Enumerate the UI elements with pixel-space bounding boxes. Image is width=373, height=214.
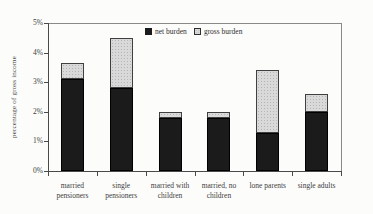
x-tick: [195, 172, 196, 176]
y-tick-label: 1%: [17, 136, 43, 146]
plot-top-border: [48, 23, 342, 24]
y-tick: [44, 23, 48, 24]
plot-right-border: [341, 23, 342, 172]
bar-net-single-pensioners: [110, 88, 133, 171]
x-category-label-lone-parents: lone parents: [243, 181, 292, 191]
x-category-label-single-pensioners: single pensioners: [97, 181, 146, 200]
y-tick-label: 5%: [17, 18, 43, 28]
y-tick-label: 4%: [17, 48, 43, 58]
y-tick: [44, 141, 48, 142]
bar-gross-married-pensioners: [61, 63, 84, 79]
x-category-label-married-with-children: married with children: [146, 181, 195, 200]
y-tick: [44, 112, 48, 113]
legend-label: net burden: [155, 27, 187, 36]
x-tick: [243, 172, 244, 176]
bar-net-married-no-children: [207, 118, 230, 171]
legend-item-net-burden: net burden: [145, 27, 187, 36]
x-tick: [341, 172, 342, 176]
y-tick: [44, 82, 48, 83]
bar-net-married-pensioners: [61, 79, 84, 171]
bar-net-married-with-children: [159, 118, 182, 171]
bar-net-single-adults: [305, 112, 328, 171]
bar-net-lone-parents: [256, 133, 279, 171]
chart-figure: percentage of gross income net burdengro…: [0, 0, 373, 214]
y-tick-label: 2%: [17, 107, 43, 117]
x-category-label-married-no-children: married, no children: [195, 181, 244, 200]
y-tick: [44, 53, 48, 54]
y-axis: [48, 23, 49, 171]
bar-gross-single-pensioners: [110, 38, 133, 88]
legend-label: gross burden: [204, 27, 243, 36]
x-category-label-married-pensioners: married pensioners: [48, 181, 97, 200]
bar-gross-lone-parents: [256, 70, 279, 132]
y-tick-label: 3%: [17, 77, 43, 87]
legend: net burdengross burden: [145, 27, 242, 36]
legend-item-gross-burden: gross burden: [194, 27, 243, 36]
bar-gross-single-adults: [305, 94, 328, 112]
y-tick-label: 0%: [17, 166, 43, 176]
gross-burden-swatch-icon: [194, 28, 201, 35]
y-axis-title: percentage of gross income: [10, 22, 20, 172]
x-tick: [292, 172, 293, 176]
x-tick: [48, 172, 49, 176]
net-burden-swatch-icon: [145, 28, 152, 35]
x-tick: [97, 172, 98, 176]
x-tick: [146, 172, 147, 176]
x-category-label-single-adults: single adults: [292, 181, 341, 191]
